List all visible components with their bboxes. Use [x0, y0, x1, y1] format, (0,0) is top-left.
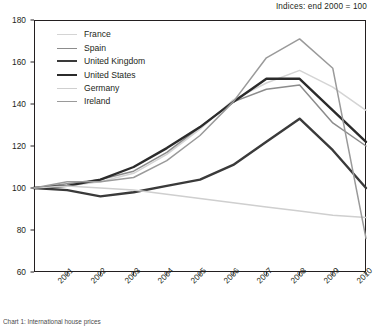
legend-label: United States — [84, 71, 136, 80]
legend-item: Ireland — [57, 95, 145, 108]
series-line — [34, 119, 366, 197]
legend-item: United Kingdom — [57, 55, 145, 68]
chart-legend: FranceSpainUnited KingdomUnited StatesGe… — [57, 28, 145, 108]
legend-swatch — [57, 48, 77, 49]
legend-label: France — [84, 30, 111, 39]
legend-swatch — [57, 88, 77, 89]
legend-label: Germany — [84, 84, 119, 93]
y-axis-tick-label: 100 — [2, 183, 26, 193]
y-axis-tick-label: 160 — [2, 57, 26, 67]
chart-caption: Chart 1: International house prices — [3, 318, 375, 327]
legend-item: United States — [57, 68, 145, 81]
y-axis-tick-label: 80 — [2, 225, 26, 235]
y-axis-tick-label: 60 — [2, 267, 26, 277]
legend-swatch — [57, 34, 77, 35]
series-line — [34, 186, 366, 218]
legend-label: United Kingdom — [84, 57, 145, 66]
line-chart: Indices: end 2000 = 100 6080100120140160… — [0, 0, 376, 327]
legend-label: Ireland — [84, 97, 110, 106]
legend-item: France — [57, 28, 145, 41]
legend-swatch — [57, 74, 77, 76]
legend-label: Spain — [84, 44, 106, 53]
y-axis-tick-label: 120 — [2, 141, 26, 151]
y-axis-tick-label: 180 — [2, 15, 26, 25]
legend-swatch — [57, 60, 77, 62]
legend-item: Germany — [57, 82, 145, 95]
legend-item: Spain — [57, 41, 145, 54]
legend-swatch — [57, 101, 77, 102]
y-axis-tick-label: 140 — [2, 99, 26, 109]
